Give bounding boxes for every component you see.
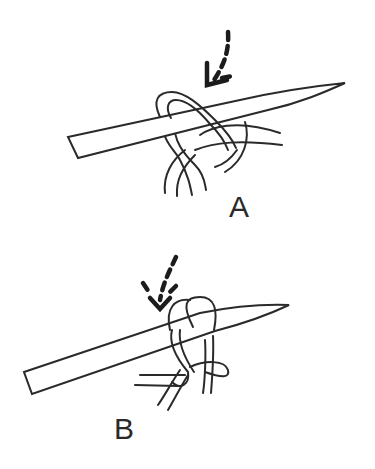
panel-a (68, 32, 345, 196)
panel-b (24, 257, 289, 410)
arrow-b-icon (143, 257, 176, 309)
panel-label-b: B (114, 414, 134, 444)
needle-b (24, 305, 289, 394)
knitting-diagram (0, 0, 375, 469)
arrow-a-icon (207, 32, 232, 85)
panel-label-a: A (229, 192, 249, 222)
